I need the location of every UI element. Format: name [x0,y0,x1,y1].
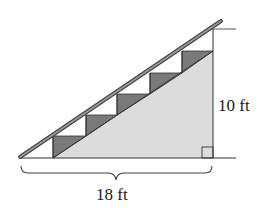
base-brace [21,166,212,180]
base-label: 18 ft [96,185,128,204]
height-label: 10 ft [218,96,250,115]
staircase-diagram: 10 ft 18 ft [0,0,278,221]
